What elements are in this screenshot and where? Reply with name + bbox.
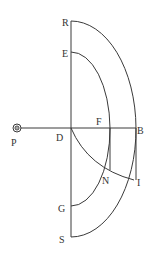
label-d: D [56, 132, 63, 143]
outer-arc-rbs [71, 21, 136, 237]
label-e: E [62, 48, 68, 59]
label-s: S [59, 234, 65, 245]
label-p: P [11, 137, 17, 148]
label-n: N [102, 175, 109, 186]
label-r: R [62, 17, 69, 28]
observer-eye-icon [13, 124, 21, 132]
label-i: I [137, 177, 140, 188]
label-g: G [58, 203, 65, 214]
diagram-canvas: R E P D F B N I G S [0, 0, 152, 262]
label-b: B [137, 125, 144, 136]
arc-dni [71, 128, 134, 180]
label-f: F [96, 116, 102, 127]
